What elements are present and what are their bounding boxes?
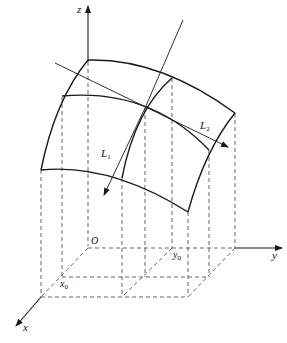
x-axis-label: x — [23, 322, 28, 333]
y-axis-label: y — [272, 250, 277, 261]
axes — [16, 6, 282, 326]
surface-top-edge — [88, 60, 235, 113]
L2-label: L2 — [200, 120, 210, 133]
x0-label: x0 — [60, 279, 68, 291]
diagram-svg — [0, 0, 287, 343]
curve-x0 — [62, 95, 209, 150]
surface-tangent-diagram: z y x O x0 y0 L1 L2 — [0, 0, 287, 343]
tangent-L2 — [55, 63, 228, 147]
L1-label: L1 — [101, 148, 111, 161]
floor-grid — [41, 248, 235, 297]
origin-label: O — [91, 236, 98, 246]
L1-sub: 1 — [107, 153, 111, 161]
surface-right-edge — [188, 113, 235, 212]
x-axis — [16, 297, 41, 326]
z-axis-label: z — [77, 4, 81, 15]
y0-label: y0 — [173, 250, 181, 262]
tangent-L1-upper — [145, 20, 183, 108]
L2-sub: 2 — [206, 125, 210, 133]
x0-sub: 0 — [64, 283, 68, 291]
curve-y0 — [122, 78, 172, 178]
vertical-projections — [41, 62, 235, 297]
y0-sub: 0 — [177, 254, 181, 262]
surface-left-edge — [41, 60, 88, 170]
surface-bottom-edge — [41, 169, 188, 212]
